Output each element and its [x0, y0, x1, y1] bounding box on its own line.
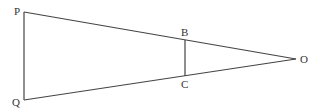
segment-qo: [24, 59, 296, 100]
diagram-canvas: P Q O B C: [0, 0, 319, 112]
label-o: O: [300, 54, 308, 65]
label-q: Q: [12, 97, 20, 108]
label-b: B: [181, 27, 188, 38]
label-p: P: [14, 6, 20, 17]
label-c: C: [181, 79, 188, 90]
triangle-figure: [0, 0, 319, 112]
segment-po: [24, 12, 296, 59]
